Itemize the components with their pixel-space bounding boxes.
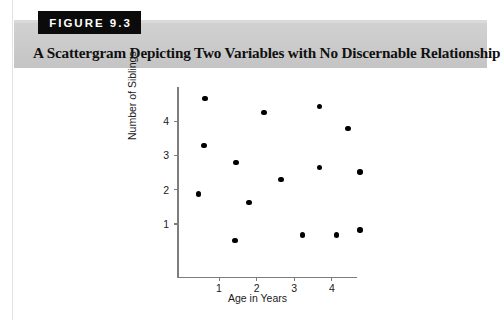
x-axis-tick-label: 1: [211, 282, 227, 294]
figure-page: FIGURE 9.3 A Scattergram Depicting Two V…: [0, 0, 501, 320]
scatter-point: [345, 126, 350, 131]
y-axis-tick-mark: [174, 121, 177, 122]
y-axis-tick-label: 2: [155, 184, 169, 196]
scatter-point: [232, 238, 237, 243]
y-axis-tick-mark: [174, 223, 177, 224]
scatter-point: [317, 165, 322, 170]
scatter-point: [300, 232, 305, 237]
scatter-point: [196, 191, 201, 196]
y-axis-line: [177, 87, 179, 278]
scatter-point: [246, 200, 251, 205]
y-axis-tick-mark: [174, 189, 177, 190]
x-axis-tick-label: 4: [324, 282, 340, 294]
scatter-point: [357, 227, 362, 232]
scatter-point: [317, 104, 322, 109]
scatter-point: [278, 177, 283, 182]
y-axis-tick-mark: [174, 155, 177, 156]
scatter-point: [334, 232, 339, 237]
x-axis-title: Age in Years: [228, 292, 287, 304]
y-axis-tick-label: 1: [155, 218, 169, 230]
x-axis-tick-label: 3: [286, 282, 302, 294]
scatter-point: [202, 96, 207, 101]
scatter-point: [357, 169, 362, 174]
scatter-point: [261, 110, 266, 115]
scatter-point: [233, 160, 238, 165]
y-axis-title: Number of Siblings: [126, 30, 138, 140]
scatter-point: [201, 143, 206, 148]
y-axis-tick-label: 4: [155, 115, 169, 127]
scatterplot: 12341234 Age in Years Number of Siblings: [0, 0, 501, 320]
x-axis-line: [177, 277, 357, 279]
y-axis-tick-label: 3: [155, 149, 169, 161]
